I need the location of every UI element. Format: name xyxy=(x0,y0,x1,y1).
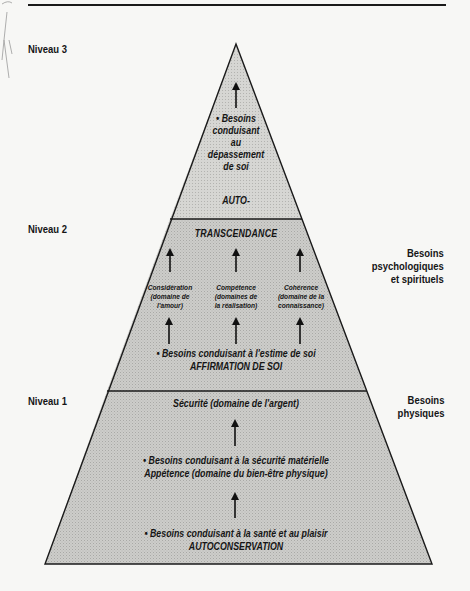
text-line: Considération xyxy=(148,283,192,292)
text-line: l'amour) xyxy=(148,301,192,310)
label-line: Besoins xyxy=(372,247,444,260)
text-line: Compétence xyxy=(215,283,258,292)
text-line: au xyxy=(208,137,264,149)
level-1-need-2-text: • Besoins conduisant à la santé et au pl… xyxy=(144,528,327,540)
affirmation-title: AFFIRMATION DE SOI xyxy=(190,361,282,373)
text-line: Cohérence xyxy=(278,283,324,292)
level-2-need-text: • Besoins conduisant à l'estime de soi xyxy=(156,348,315,360)
level-1-need-1-text: • Besoins conduisant à la sécurité matér… xyxy=(143,455,329,467)
level-3-need-text: • Besoins conduisant au dépassement de s… xyxy=(208,113,264,173)
coherence-column: Cohérence (domaine de la connaissance) xyxy=(278,283,324,310)
text-line: (domaines de xyxy=(215,292,258,301)
text-line: • Besoins xyxy=(208,113,264,125)
securite-title: Sécurité (domaine de l'argent) xyxy=(173,398,299,410)
text-line: connaissance) xyxy=(278,301,324,310)
label-line: Besoins xyxy=(397,394,444,407)
level-2-label: Niveau 2 xyxy=(28,223,67,236)
label-line: et spirituels xyxy=(372,273,444,286)
label-line: psychologiques xyxy=(372,260,444,273)
level-3-label: Niveau 3 xyxy=(28,43,67,56)
psychological-needs-label: Besoins psychologiques et spirituels xyxy=(372,247,444,286)
text-line: de soi xyxy=(208,161,264,173)
physical-needs-label: Besoins physiques xyxy=(397,394,444,420)
transcendance-title: TRANSCENDANCE xyxy=(195,228,277,240)
consideration-column: Considération (domaine de l'amour) xyxy=(148,283,192,310)
text-line: conduisant xyxy=(208,125,264,137)
text-line: dépassement xyxy=(208,149,264,161)
autoconservation-title: AUTOCONSERVATION xyxy=(189,541,283,553)
diagram-page: Niveau 3 Niveau 2 Niveau 1 Besoins psych… xyxy=(0,0,470,591)
text-line: (domaine de la xyxy=(278,292,324,301)
text-line: (domaine de xyxy=(148,292,192,301)
competence-column: Compétence (domaines de la réalisation) xyxy=(215,283,258,310)
text-line: la réalisation) xyxy=(215,301,258,310)
appetence-text: Appétence (domaine du bien-être physique… xyxy=(144,468,327,480)
level-1-label: Niveau 1 xyxy=(28,395,67,408)
level-3-auto-text: AUTO- xyxy=(222,195,250,207)
pencil-mark-icon xyxy=(2,2,12,78)
label-line: physiques xyxy=(397,407,444,420)
